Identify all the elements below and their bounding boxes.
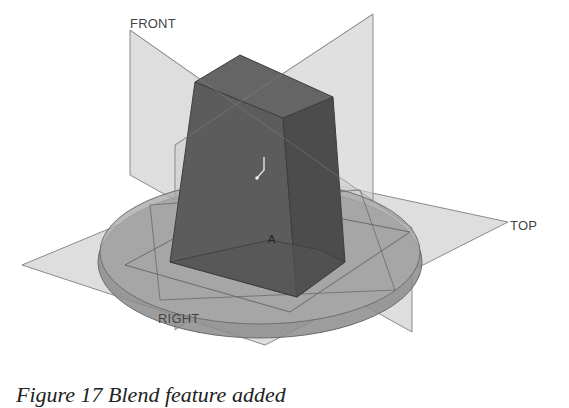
top-plane-label: TOP [510,218,537,233]
csys-label: A [268,233,276,245]
front-plane-label: FRONT [130,16,176,31]
csys-origin-icon [255,176,259,180]
right-plane-label: RIGHT [158,311,199,326]
figure-caption: Figure 17 Blend feature added [16,382,286,408]
